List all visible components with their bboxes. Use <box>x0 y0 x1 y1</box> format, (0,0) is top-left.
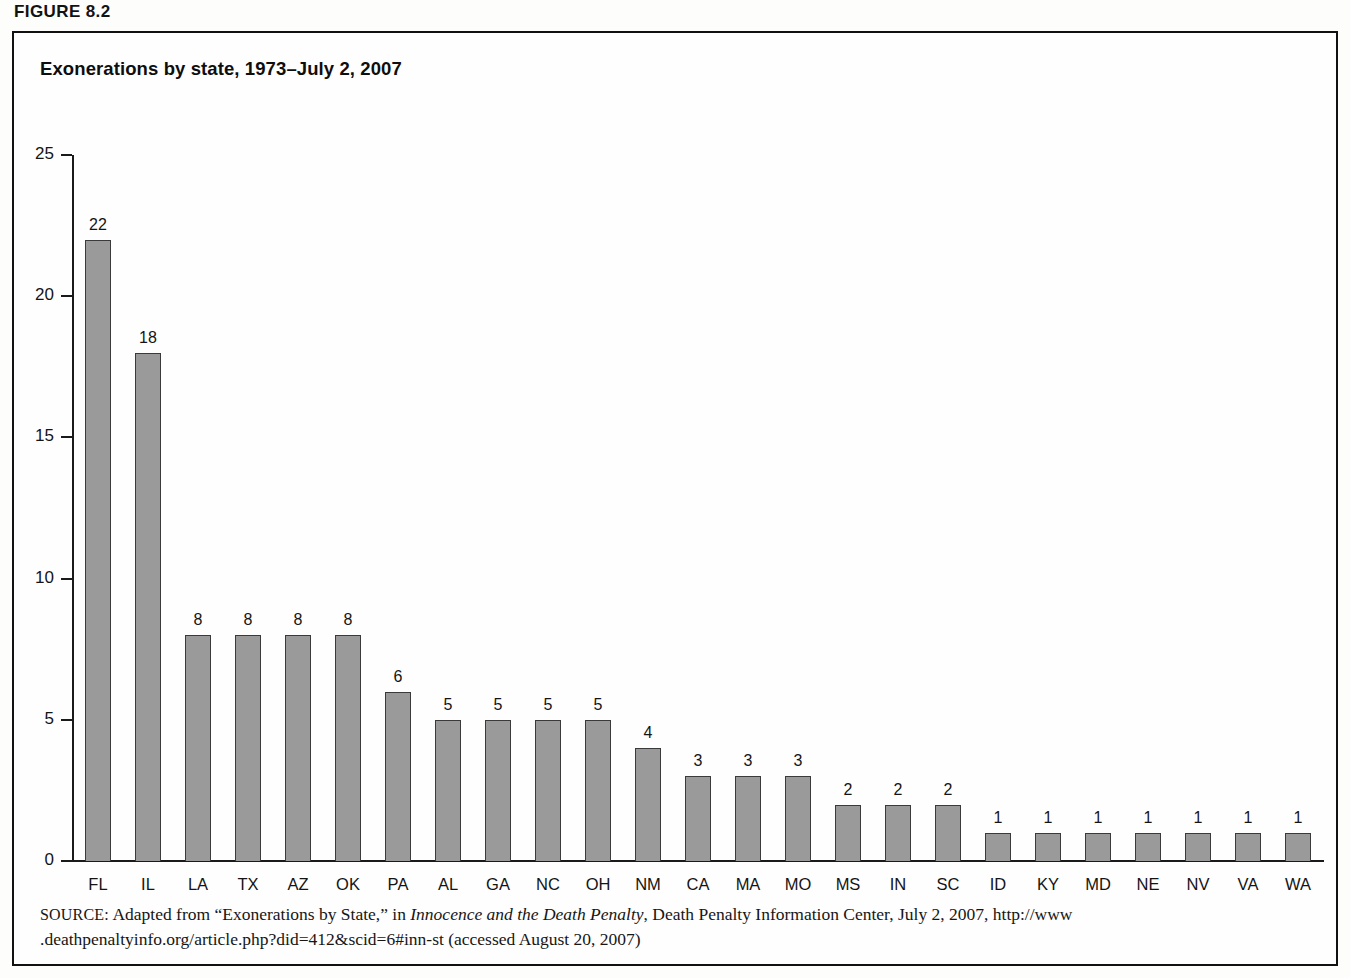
x-axis-tick-label: VA <box>1238 875 1259 894</box>
bar-slot: 2MS <box>835 155 861 861</box>
y-axis-tick-label: 0 <box>10 850 54 870</box>
bar[interactable] <box>685 776 711 861</box>
bar-value-label: 3 <box>794 752 803 770</box>
bar-value-label: 2 <box>894 781 903 799</box>
y-axis-tick-label: 25 <box>10 144 54 164</box>
bar-slot: 1ID <box>985 155 1011 861</box>
x-axis-tick-label: CA <box>687 875 710 894</box>
bar[interactable] <box>635 748 661 861</box>
bar[interactable] <box>185 635 211 861</box>
y-axis-tick-mark <box>61 860 72 862</box>
source-prefix: SOURCE: <box>40 906 109 923</box>
bar-slot: 3MO <box>785 155 811 861</box>
bar[interactable] <box>1285 833 1311 861</box>
bar-value-label: 8 <box>294 611 303 629</box>
x-axis-tick-label: ID <box>990 875 1007 894</box>
bar-slot: 4NM <box>635 155 661 861</box>
bar-slot: 1NV <box>1185 155 1211 861</box>
x-axis-tick-label: MA <box>736 875 761 894</box>
bar[interactable] <box>1085 833 1111 861</box>
x-axis-tick-label: MO <box>785 875 812 894</box>
bar-slot: 1WA <box>1285 155 1311 861</box>
bar-value-label: 1 <box>1144 809 1153 827</box>
y-axis-tick-mark <box>61 295 72 297</box>
x-axis-tick-label: LA <box>188 875 208 894</box>
bar-slot: 1MD <box>1085 155 1111 861</box>
x-axis-tick-label: IL <box>141 875 155 894</box>
x-axis-tick-label: NE <box>1137 875 1160 894</box>
bar-value-label: 8 <box>194 611 203 629</box>
y-axis-tick-label: 20 <box>10 285 54 305</box>
bar-slot: 22FL <box>85 155 111 861</box>
bar[interactable] <box>1235 833 1261 861</box>
bar[interactable] <box>1185 833 1211 861</box>
bar[interactable] <box>985 833 1011 861</box>
bar-slot: 5GA <box>485 155 511 861</box>
bar-slot: 3MA <box>735 155 761 861</box>
bar-value-label: 1 <box>1244 809 1253 827</box>
source-italic-title: Innocence and the Death Penalty <box>410 904 643 924</box>
y-axis-tick-label: 5 <box>10 709 54 729</box>
chart-title: Exonerations by state, 1973–July 2, 2007 <box>40 58 402 80</box>
bar-value-label: 8 <box>244 611 253 629</box>
x-axis-tick-label: NV <box>1187 875 1210 894</box>
x-axis-tick-label: PA <box>388 875 409 894</box>
bar[interactable] <box>935 805 961 861</box>
bar-value-label: 5 <box>544 696 553 714</box>
x-axis-tick-label: MS <box>836 875 861 894</box>
bar[interactable] <box>385 692 411 861</box>
x-axis-tick-label: KY <box>1037 875 1059 894</box>
bar-value-label: 2 <box>944 781 953 799</box>
bar[interactable] <box>485 720 511 861</box>
figure-page: FIGURE 8.2 Exonerations by state, 1973–J… <box>0 0 1350 978</box>
bar-value-label: 2 <box>844 781 853 799</box>
x-axis-tick-label: AL <box>438 875 458 894</box>
bar-slot: 8TX <box>235 155 261 861</box>
bar-value-label: 5 <box>594 696 603 714</box>
figure-label: FIGURE 8.2 <box>14 2 111 22</box>
x-axis-tick-label: IN <box>890 875 907 894</box>
bar[interactable] <box>535 720 561 861</box>
bar[interactable] <box>785 776 811 861</box>
bar-value-label: 3 <box>694 752 703 770</box>
bar-slot: 8OK <box>335 155 361 861</box>
bar-slot: 1NE <box>1135 155 1161 861</box>
x-axis-tick-label: OK <box>336 875 360 894</box>
bar-slot: 2SC <box>935 155 961 861</box>
bar[interactable] <box>235 635 261 861</box>
x-axis-tick-label: WA <box>1285 875 1311 894</box>
bar-value-label: 1 <box>1044 809 1053 827</box>
y-axis-tick-mark <box>61 436 72 438</box>
bar[interactable] <box>335 635 361 861</box>
y-axis-tick-mark <box>61 719 72 721</box>
bar[interactable] <box>885 805 911 861</box>
bar[interactable] <box>1035 833 1061 861</box>
x-axis-tick-label: GA <box>486 875 510 894</box>
bar-value-label: 18 <box>139 329 157 347</box>
bar-slot: 5OH <box>585 155 611 861</box>
bar[interactable] <box>735 776 761 861</box>
bar[interactable] <box>585 720 611 861</box>
bar[interactable] <box>435 720 461 861</box>
bar-slot: 6PA <box>385 155 411 861</box>
bar-value-label: 8 <box>344 611 353 629</box>
y-axis-tick-mark <box>61 154 72 156</box>
bar[interactable] <box>835 805 861 861</box>
bar[interactable] <box>135 353 161 861</box>
bar-value-label: 5 <box>494 696 503 714</box>
bar[interactable] <box>85 240 111 861</box>
bar-value-label: 6 <box>394 668 403 686</box>
y-axis-line <box>72 155 74 861</box>
y-axis-tick-label: 10 <box>10 568 54 588</box>
bar-slot: 1KY <box>1035 155 1061 861</box>
bar-slot: 3CA <box>685 155 711 861</box>
bar[interactable] <box>285 635 311 861</box>
x-axis-tick-label: FL <box>88 875 107 894</box>
bar-value-label: 1 <box>994 809 1003 827</box>
bar-slot: 2IN <box>885 155 911 861</box>
bar[interactable] <box>1135 833 1161 861</box>
x-axis-tick-label: NC <box>536 875 560 894</box>
figure-frame: Exonerations by state, 1973–July 2, 2007… <box>12 31 1338 966</box>
plot-area: 0510152025 22FL18IL8LA8TX8AZ8OK6PA5AL5GA… <box>72 155 1324 861</box>
bar-value-label: 1 <box>1294 809 1303 827</box>
